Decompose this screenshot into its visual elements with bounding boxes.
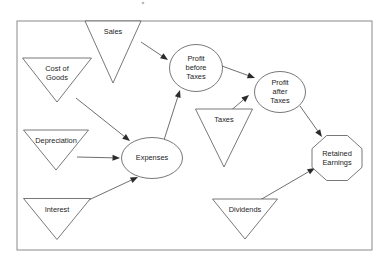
edge-sales-to-profit_before [141, 42, 162, 56]
node-expenses[interactable]: Expenses [122, 138, 183, 179]
arrowhead-interest-to-expenses [130, 177, 138, 183]
node-cost_of_goods[interactable]: Cost ofGoods [23, 58, 92, 102]
node-profit_after[interactable]: ProfitafterTaxes [255, 72, 306, 113]
node-label-cost_of_goods: Cost ofGoods [45, 64, 69, 82]
scan-speck [142, 2, 145, 5]
diagram-canvas: SalesCost ofGoodsDepreciationInterestExp… [0, 0, 384, 265]
arrowhead-cost_of_goods-to-expenses [122, 134, 130, 141]
node-label-taxes: Taxes [214, 115, 234, 124]
node-profit_before[interactable]: ProfitbeforeTaxes [170, 45, 223, 92]
nodes-layer: SalesCost ofGoodsDepreciationInterestExp… [23, 21, 363, 240]
scan-speck-icon [142, 2, 145, 5]
node-label-expenses: Expenses [136, 153, 169, 162]
node-depreciation[interactable]: Depreciation [24, 130, 89, 170]
arrowhead-profit_after-to-retained [315, 129, 322, 137]
node-taxes[interactable]: Taxes [196, 109, 253, 167]
arrowhead-sales-to-profit_before [160, 53, 168, 60]
node-sales[interactable]: Sales [85, 21, 141, 83]
node-label-interest: Interest [45, 204, 70, 213]
edge-profit_before-to-profit_after [222, 66, 248, 75]
edge-depreciation-to-expenses [77, 157, 113, 158]
node-label-profit_after: ProfitafterTaxes [270, 78, 290, 105]
edge-expenses-to-profit_before [164, 97, 178, 140]
arrowhead-expenses-to-profit_before [175, 90, 181, 98]
node-dividends[interactable]: Dividends [213, 199, 278, 239]
node-retained[interactable]: RetainedEarnings [312, 136, 362, 181]
node-label-sales: Sales [104, 27, 123, 36]
node-label-depreciation: Depreciation [35, 136, 77, 145]
arrowhead-depreciation-to-expenses [112, 155, 120, 161]
edge-profit_after-to-retained [300, 106, 318, 131]
node-label-retained: RetainedEarnings [322, 148, 352, 166]
node-label-profit_before: ProfitbeforeTaxes [186, 54, 207, 81]
node-interest[interactable]: Interest [24, 199, 91, 240]
node-label-dividends: Dividends [229, 205, 262, 214]
arrowhead-profit_before-to-profit_after [247, 73, 255, 79]
